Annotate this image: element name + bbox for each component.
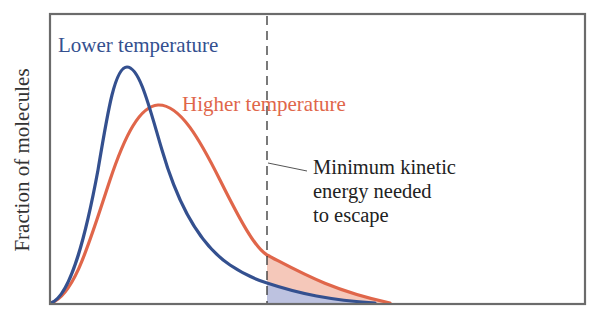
annotation-line-2: energy needed bbox=[313, 179, 456, 203]
annotation-leader-line bbox=[268, 163, 307, 171]
higher-temp-label: Higher temperature bbox=[182, 92, 346, 117]
y-axis-label: Fraction of molecules bbox=[10, 68, 35, 251]
lower-temp-label: Lower temperature bbox=[58, 33, 218, 58]
annotation-line-3: to escape bbox=[313, 203, 456, 227]
annotation-line-1: Minimum kinetic bbox=[313, 155, 456, 179]
threshold-annotation: Minimum kinetic energy needed to escape bbox=[313, 155, 456, 227]
